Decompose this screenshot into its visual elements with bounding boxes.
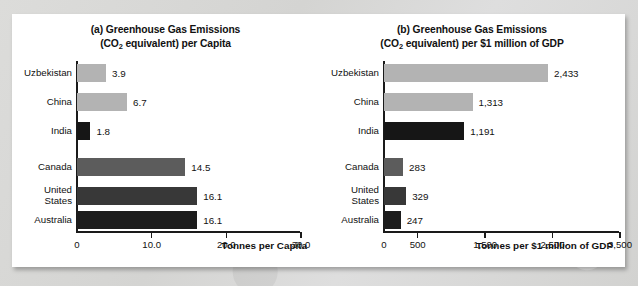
panel-b-y-axis: [383, 61, 385, 233]
figure-card: (a) Greenhouse Gas Emissions (CO2 equiva…: [12, 14, 625, 267]
x-tick-a-1: [151, 232, 152, 238]
x-tick-label-a-1: 10.0: [142, 239, 161, 250]
bar-uzbekistan-a: [77, 64, 106, 82]
bar-value-australia-a: 16.1: [203, 215, 222, 226]
panel-a-x-axis-label: Tonnes per Capita: [222, 240, 307, 251]
chart-row-australia-b: Australia 247: [319, 209, 625, 231]
panel-b-title-line2: (CO2 equivalent) per $1 million of GDP: [319, 37, 625, 54]
bar-value-china-a: 6.7: [133, 97, 147, 108]
chart-row-china-b: China 1,313: [319, 91, 625, 113]
bar-australia-a: [77, 211, 197, 229]
bar-australia-b: [384, 211, 401, 229]
chart-row-united-states-a: United States 16.1: [12, 185, 319, 207]
x-tick-label-a-0: 0: [74, 239, 79, 250]
chart-row-united-states-b: United States 329: [319, 185, 625, 207]
row-label-china-a: China: [14, 97, 72, 108]
bar-value-india-b: 1,191: [470, 126, 495, 137]
x-tick-label-b-1: 500: [410, 239, 426, 250]
chart-row-canada-a: Canada 14.5: [12, 156, 319, 178]
bar-india-b: [384, 122, 464, 140]
bar-value-canada-b: 283: [409, 162, 425, 173]
bar-value-united-states-a: 16.1: [203, 191, 222, 202]
panel-b-title-line2-post: equivalent) per $1 million of GDP: [403, 38, 564, 49]
bar-china-a: [77, 93, 127, 111]
bar-value-china-b: 1,313: [479, 97, 504, 108]
bar-united-states-b: [384, 187, 406, 205]
chart-row-canada-b: Canada 283: [319, 156, 625, 178]
bar-value-india-a: 1.8: [96, 126, 110, 137]
chart-panel-b: (b) Greenhouse Gas Emissions (CO2 equiva…: [319, 14, 625, 267]
chart-row-china-a: China 6.7: [12, 91, 319, 113]
panel-a-title-line2-post: equivalent) per Capita: [123, 38, 231, 49]
panel-a-title: (a) Greenhouse Gas Emissions (CO2 equiva…: [12, 23, 319, 54]
x-tick-b-3: [552, 232, 553, 238]
row-label-australia-a: Australia: [14, 215, 72, 226]
chart-row-uzbekistan-a: Uzbekistan 3.9: [12, 62, 319, 84]
bar-canada-a: [77, 158, 185, 176]
x-tick-a-3: [300, 232, 301, 238]
row-label-canada-b: Canada: [321, 162, 379, 173]
bar-united-states-a: [77, 187, 197, 205]
panel-a-title-line1: (a) Greenhouse Gas Emissions: [91, 24, 240, 35]
row-label-canada-a: Canada: [14, 162, 72, 173]
panel-b-plot-area: Uzbekistan 2,433 China 1,313 India 1,191…: [319, 58, 625, 236]
chart-row-india-b: India 1,191: [319, 120, 625, 142]
bar-value-uzbekistan-b: 2,433: [554, 68, 579, 79]
row-label-australia-b: Australia: [321, 215, 379, 226]
chart-row-australia-a: Australia 16.1: [12, 209, 319, 231]
bar-value-united-states-b: 329: [412, 191, 428, 202]
bar-canada-b: [384, 158, 403, 176]
x-tick-label-b-0: 0: [381, 239, 386, 250]
row-label-india-a: India: [14, 126, 72, 137]
x-tick-a-2: [226, 232, 227, 238]
panel-b-x-axis-label: Tonnes per $1 million of GDP: [476, 240, 613, 251]
x-tick-b-4: [619, 232, 620, 238]
row-label-united-states-a: United States: [14, 185, 72, 206]
chart-panel-a: (a) Greenhouse Gas Emissions (CO2 equiva…: [12, 14, 319, 267]
chart-row-uzbekistan-b: Uzbekistan 2,433: [319, 62, 625, 84]
bar-value-australia-b: 247: [407, 215, 423, 226]
panel-a-title-line2-pre: (CO: [100, 38, 119, 49]
panel-b-title-line2-pre: (CO: [380, 38, 399, 49]
bar-china-b: [384, 93, 473, 111]
x-tick-b-2: [484, 232, 485, 238]
bar-india-a: [77, 122, 90, 140]
row-label-china-b: China: [321, 97, 379, 108]
panel-a-plot-area: Uzbekistan 3.9 China 6.7 India 1.8 Canad…: [12, 58, 319, 236]
chart-row-india-a: India 1.8: [12, 120, 319, 142]
row-label-uzbekistan-b: Uzbekistan: [321, 68, 379, 79]
panel-a-y-axis: [76, 61, 78, 233]
panel-a-title-line2: (CO2 equivalent) per Capita: [12, 37, 319, 54]
row-label-uzbekistan-a: Uzbekistan: [14, 68, 72, 79]
row-label-united-states-b: United States: [321, 185, 379, 206]
panel-b-title: (b) Greenhouse Gas Emissions (CO2 equiva…: [319, 23, 625, 54]
panel-b-x-axis: [383, 231, 619, 233]
row-label-india-b: India: [321, 126, 379, 137]
bar-value-canada-a: 14.5: [191, 162, 210, 173]
x-tick-b-1: [417, 232, 418, 238]
bar-uzbekistan-b: [384, 64, 548, 82]
panel-b-title-line1: (b) Greenhouse Gas Emissions: [397, 24, 547, 35]
panel-a-x-axis: [76, 231, 300, 233]
bar-value-uzbekistan-a: 3.9: [112, 68, 126, 79]
